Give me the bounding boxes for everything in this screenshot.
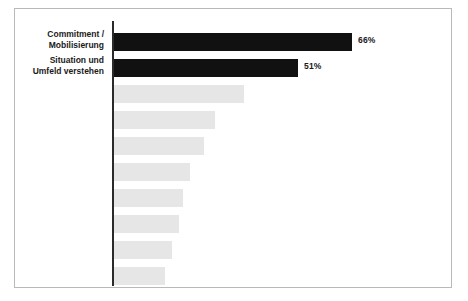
bar-row: Situation und Umfeld verstehen51% — [15, 55, 453, 81]
bar — [114, 85, 244, 103]
bar — [114, 163, 190, 181]
plot-area: Commitment / Mobilisierung66%Situation u… — [15, 9, 453, 289]
screenshot-root: Commitment / Mobilisierung66%Situation u… — [0, 0, 468, 301]
bar — [114, 33, 352, 51]
bar — [114, 215, 179, 233]
bar-row — [15, 211, 453, 237]
bar-row — [15, 185, 453, 211]
bar — [114, 59, 298, 77]
bar-row — [15, 263, 453, 289]
bar-row: Commitment / Mobilisierung66% — [15, 29, 453, 55]
bar-row — [15, 159, 453, 185]
bar — [114, 189, 183, 207]
bar-row — [15, 237, 453, 263]
bar-category-label: Commitment / Mobilisierung — [0, 29, 104, 51]
bar-value-label: 51% — [304, 60, 322, 72]
bar-row — [15, 81, 453, 107]
bar — [114, 241, 172, 259]
bar — [114, 267, 165, 285]
bar-category-label: Situation und Umfeld verstehen — [0, 55, 104, 77]
bar-row — [15, 133, 453, 159]
bar — [114, 111, 215, 129]
bar-row — [15, 107, 453, 133]
bar-value-label: 66% — [358, 34, 376, 46]
chart-frame: Commitment / Mobilisierung66%Situation u… — [14, 8, 452, 288]
bar — [114, 137, 204, 155]
